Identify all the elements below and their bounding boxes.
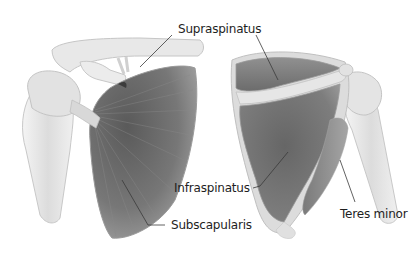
label-teres-minor: Teres minor bbox=[340, 207, 408, 221]
label-subscapularis: Subscapularis bbox=[171, 218, 252, 232]
leader-teres-minor bbox=[340, 160, 355, 202]
rotator-cuff-diagram: Supraspinatus Infraspinatus Subscapulari… bbox=[0, 0, 417, 257]
coracoid-process bbox=[80, 61, 126, 84]
label-supraspinatus: Supraspinatus bbox=[178, 22, 261, 36]
anterior-view bbox=[23, 38, 204, 238]
label-infraspinatus: Infraspinatus bbox=[174, 181, 250, 195]
subscapularis-muscle bbox=[90, 66, 197, 238]
